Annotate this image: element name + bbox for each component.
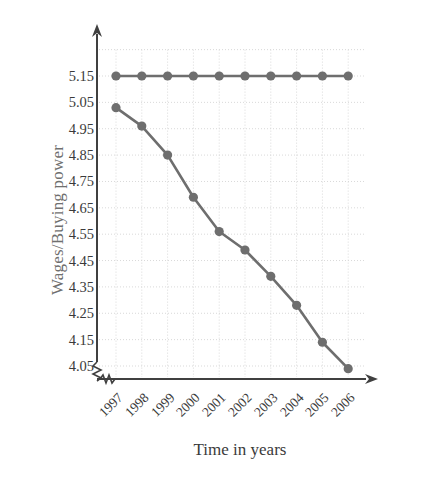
x-tick-label: 2002 (225, 390, 255, 420)
x-tick-label: 1999 (148, 390, 178, 420)
chart-figure: 5.155.054.954.854.754.654.554.454.354.25… (0, 0, 434, 480)
x-tick-label: 2000 (173, 390, 203, 420)
x-tick-label: 1997 (96, 390, 126, 420)
x-tick-label: 1998 (122, 390, 152, 420)
x-tick-label: 2006 (328, 390, 358, 420)
x-tick-label: 2005 (302, 390, 332, 420)
x-tick-label: 2004 (277, 390, 307, 420)
x-axis-title: Time in years (90, 440, 390, 460)
x-tick-label: 2003 (251, 390, 281, 420)
y-axis-title: Wages/Buying power (48, 100, 68, 340)
x-tick-label: 2001 (199, 390, 229, 420)
